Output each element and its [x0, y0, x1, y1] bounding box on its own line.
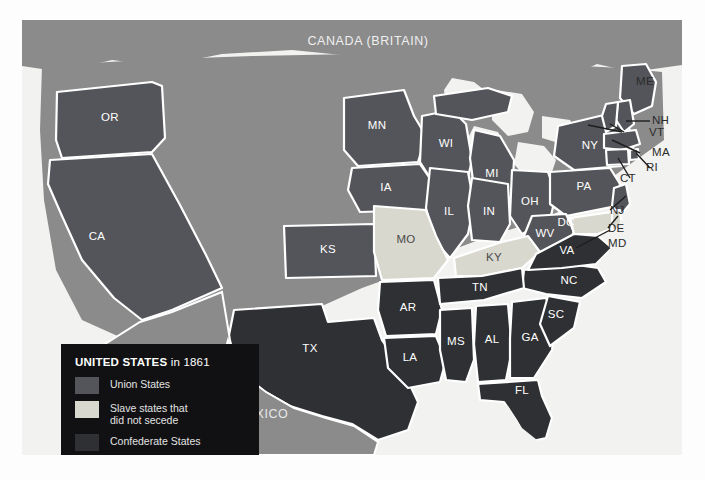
- map-legend: UNITED STATES in 1861 Union States Slave…: [61, 344, 259, 455]
- label-KY: KY: [486, 251, 502, 263]
- label-WV: WV: [535, 227, 554, 239]
- legend-title: UNITED STATES in 1861: [75, 356, 259, 368]
- label-LA: LA: [403, 351, 418, 363]
- label-NJ: NJ: [610, 204, 625, 216]
- label-NH: NH: [652, 114, 669, 126]
- label-MS: MS: [447, 335, 465, 347]
- label-VT: VT: [649, 126, 664, 138]
- label-AR: AR: [400, 301, 417, 313]
- state-CT[interactable]: [606, 149, 629, 165]
- label-WI: WI: [439, 137, 454, 149]
- legend-label-slave-no-secede: Slave states that did not secede: [110, 401, 188, 427]
- label-CT: CT: [620, 172, 636, 184]
- legend-title-rest: in 1861: [167, 356, 210, 368]
- legend-swatch-slave-no-secede: [75, 401, 99, 418]
- legend-label-slave-line2: did not secede: [110, 414, 188, 426]
- label-PA: PA: [576, 180, 591, 192]
- label-IN: IN: [483, 205, 495, 217]
- legend-label-union: Union States: [110, 377, 170, 390]
- label-CA: CA: [89, 230, 106, 242]
- label-DC: DC: [557, 216, 574, 228]
- label-IL: IL: [444, 205, 454, 217]
- legend-swatch-union: [75, 377, 99, 394]
- label-TN: TN: [472, 281, 488, 293]
- legend-title-bold: UNITED STATES: [75, 356, 167, 368]
- label-GA: GA: [521, 331, 538, 343]
- legend-label-slave-line1: Slave states that: [110, 402, 188, 414]
- label-RI: RI: [646, 161, 658, 173]
- label-MN: MN: [368, 119, 387, 131]
- label-MD: MD: [608, 237, 627, 249]
- label-IA: IA: [380, 181, 391, 193]
- label-AL: AL: [485, 333, 500, 345]
- legend-label-confederate: Confederate States: [110, 434, 200, 447]
- legend-swatch-confederate: [75, 434, 99, 451]
- label-TX: TX: [302, 342, 317, 354]
- label-canada: CANADA (BRITAIN): [307, 34, 428, 48]
- label-OR: OR: [101, 111, 119, 123]
- label-NC: NC: [560, 274, 577, 286]
- label-FL: FL: [515, 384, 529, 396]
- label-NY: NY: [582, 139, 599, 151]
- label-SC: SC: [548, 308, 565, 320]
- label-KS: KS: [320, 243, 336, 255]
- label-MI: MI: [485, 167, 498, 179]
- label-OH: OH: [521, 195, 539, 207]
- label-MA: MA: [652, 146, 670, 158]
- label-DE: DE: [608, 222, 625, 234]
- legend-item-slave-no-secede: Slave states that did not secede: [75, 401, 259, 427]
- map-page: CANADA (BRITAIN) MEXICO OR CA KS MN IA W…: [0, 0, 705, 480]
- legend-item-union: Union States: [75, 377, 259, 394]
- label-VA: VA: [559, 244, 574, 256]
- label-ME: ME: [636, 75, 654, 87]
- map-image[interactable]: CANADA (BRITAIN) MEXICO OR CA KS MN IA W…: [22, 20, 682, 455]
- label-MO: MO: [396, 233, 415, 245]
- legend-item-confederate: Confederate States: [75, 434, 259, 451]
